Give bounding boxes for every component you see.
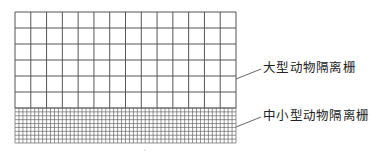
artifact-dot [144,149,145,150]
small-medium-animal-fence-grid [15,108,236,143]
label-small-medium-animal-fence: 中小型动物隔离栅 [263,110,369,123]
leader-lines [236,69,261,127]
leader-line-small-medium-fence [236,117,261,127]
fence-diagram [0,0,370,155]
leader-line-large-fence [236,69,261,79]
label-large-animal-fence: 大型动物隔离栅 [263,62,356,75]
large-animal-fence-grid [15,12,236,108]
